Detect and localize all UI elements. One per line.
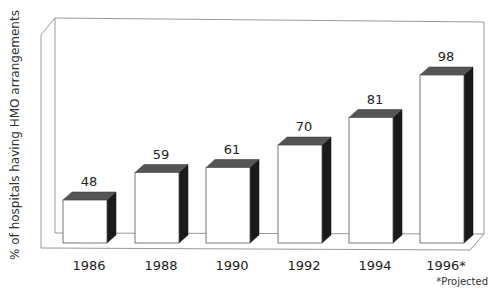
bar-top-1986 — [63, 192, 116, 200]
bar-1988 — [135, 173, 179, 244]
bar-1996* — [420, 75, 464, 243]
bar-side-1986 — [107, 192, 116, 243]
chart-canvas — [0, 0, 500, 300]
value-label-1992: 70 — [296, 119, 313, 134]
bar-top-1992 — [278, 137, 331, 145]
bar-1986 — [63, 200, 107, 243]
x-tick-1992: 1992 — [287, 258, 320, 273]
footnote: *Projected — [436, 276, 488, 287]
value-label-1986: 48 — [81, 174, 98, 189]
y-axis-label: % of hospitals having HMO arrangements — [4, 20, 26, 250]
value-label-1988: 59 — [153, 147, 170, 162]
bar-side-1990 — [250, 160, 259, 244]
x-tick-1996: 1996* — [426, 258, 466, 273]
x-tick-1988: 1988 — [144, 258, 177, 273]
bar-group — [63, 67, 473, 243]
bar-side-1992 — [322, 137, 331, 243]
value-label-1994: 81 — [367, 92, 384, 107]
bar-top-1990 — [206, 160, 259, 168]
bar-1994 — [349, 118, 393, 244]
bar-1990 — [206, 168, 250, 244]
x-tick-1994: 1994 — [358, 258, 391, 273]
x-tick-1986: 1986 — [72, 258, 105, 273]
bar-1992 — [278, 145, 322, 243]
value-label-1996: 98 — [438, 49, 455, 64]
value-label-1990: 61 — [224, 142, 241, 157]
bar-side-1988 — [179, 165, 188, 244]
x-tick-1990: 1990 — [215, 258, 248, 273]
bar-top-1988 — [135, 165, 188, 173]
bar-side-1994 — [393, 110, 402, 244]
bar-side-1996* — [464, 67, 473, 243]
bar-top-1996* — [420, 67, 473, 75]
y-axis-label-text: % of hospitals having HMO arrangements — [8, 10, 22, 260]
bar-top-1994 — [349, 110, 402, 118]
